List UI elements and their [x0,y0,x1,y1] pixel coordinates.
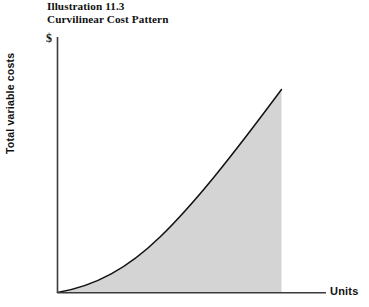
area-under-curve-fill [58,90,282,293]
illustration-figure: Illustration 11.3 Curvilinear Cost Patte… [0,0,369,307]
plot-area [0,0,369,307]
